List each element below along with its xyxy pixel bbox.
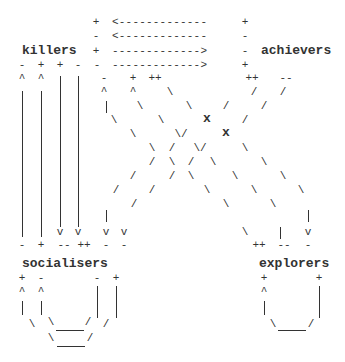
line-seg [22, 301, 23, 315]
caret-icon: ^ [19, 72, 26, 84]
sign-minus: - [242, 30, 249, 42]
sign-minus: - [305, 239, 312, 251]
diag-back: \ [261, 156, 268, 168]
arrow-left-2: <------------- [112, 30, 207, 42]
caret-icon: ^ [38, 72, 45, 84]
caret-icon: ^ [130, 85, 137, 97]
diag-back: \ [270, 198, 277, 210]
diag-back: \ [204, 184, 211, 196]
sign-minus: - [19, 239, 26, 251]
player-types-diagram: + <------------- + - <------------- - ki… [0, 0, 345, 362]
diag-fwd: / [85, 316, 92, 328]
line-seg [41, 301, 42, 315]
sign-minus: - [93, 30, 100, 42]
caret-icon: ^ [19, 285, 26, 297]
cross-mark: x [203, 113, 211, 125]
diag-fwd: / [87, 332, 94, 344]
sign-minus: - [94, 272, 101, 284]
sign-minus: - [103, 239, 110, 251]
sign-plus: + [38, 239, 45, 251]
diag-fwd: / [261, 100, 268, 112]
vee-icon: v [57, 226, 64, 238]
sign-minus: - [94, 59, 101, 71]
label-explorers: explorers [259, 257, 329, 271]
sign-minus: - [101, 72, 108, 84]
diag-cross: \/ [193, 142, 206, 154]
diag-fwd: / [130, 170, 137, 182]
sign-plus: + [38, 59, 45, 71]
sign-minus: - [242, 45, 249, 57]
line-killers-4 [78, 76, 79, 227]
diag-fwd: / [308, 318, 315, 330]
diag-back: \ [270, 318, 277, 330]
caret-icon: ^ [101, 85, 108, 97]
sign-plusplus: ++ [245, 72, 258, 84]
diag-fwd: / [242, 114, 249, 126]
diag-fwd: / [251, 86, 258, 98]
line-killers-3 [60, 76, 61, 227]
diag-cross: \/ [174, 128, 187, 140]
diag-fwd: / [103, 318, 110, 330]
sign-plusplus: ++ [252, 239, 265, 251]
diag-back: \ [242, 142, 249, 154]
diag-fwd: / [131, 198, 138, 210]
diag-back: \ [48, 332, 55, 344]
sign-minus: - [19, 59, 26, 71]
line-seg [56, 330, 84, 331]
sign-minusminus: -- [279, 72, 292, 84]
diag-back: \ [111, 114, 118, 126]
sign-plus: + [113, 272, 120, 284]
diag-back: \ [48, 316, 55, 328]
arrow-right-2: -------------> [112, 59, 207, 71]
sign-minus: - [121, 239, 128, 251]
diag-back: \ [137, 100, 144, 112]
caret-icon: ^ [38, 285, 45, 297]
diag-back: \ [223, 198, 230, 210]
diag-back: \ [167, 86, 174, 98]
diag-back: \ [158, 114, 165, 126]
sign-plus: + [57, 59, 64, 71]
sign-plusplus: ++ [77, 239, 90, 251]
sign-minus: - [75, 59, 82, 71]
line-seg [57, 346, 85, 347]
line-seg [97, 286, 98, 318]
sign-plus: + [242, 16, 249, 28]
diag-back: \ [186, 100, 193, 112]
line-seg [308, 210, 309, 222]
line-seg [106, 210, 107, 222]
diag-back: \ [29, 318, 36, 330]
arrow-left-1: <------------- [112, 16, 207, 28]
sign-minus: - [38, 272, 45, 284]
label-achievers: achievers [261, 44, 331, 58]
vee-icon: v [305, 226, 312, 238]
sign-plusplus: ++ [148, 72, 161, 84]
diag-back: \ [298, 184, 305, 196]
sign-plus: + [261, 272, 268, 284]
line-seg [116, 286, 117, 318]
sign-minusminus: -- [57, 239, 70, 251]
vee-icon: v [103, 226, 110, 238]
diag-back: \ [210, 156, 217, 168]
diag-back: \ [130, 128, 137, 140]
diag-back: \ [280, 170, 287, 182]
label-killers: killers [22, 44, 77, 58]
arrow-right-1: -------------> [112, 45, 207, 57]
sign-plus: + [93, 45, 100, 57]
sign-plus: + [130, 72, 137, 84]
line-seg [319, 286, 320, 318]
diag-fwd: / [149, 184, 156, 196]
diag-fwd: / [280, 86, 287, 98]
line-killers-1 [22, 91, 23, 237]
sign-plus: + [19, 272, 26, 284]
sign-plus: + [316, 272, 323, 284]
diag-back: \ [149, 142, 156, 154]
line-seg [106, 101, 107, 113]
cross-mark: x [222, 127, 230, 139]
diag-back: \ [169, 156, 176, 168]
diag-fwd: / [223, 100, 230, 112]
diag-fwd: / [113, 184, 120, 196]
line-killers-2 [41, 91, 42, 237]
diag-fwd: / [169, 142, 176, 154]
diag-fwd: / [149, 156, 156, 168]
sign-minusminus: -- [277, 239, 290, 251]
